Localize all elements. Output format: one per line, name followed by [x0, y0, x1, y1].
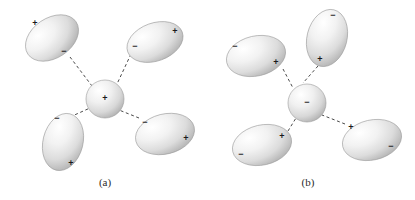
panel-a-caption: (a) — [99, 176, 112, 189]
dipole-lower-right-a-sign-1: + — [183, 133, 188, 143]
central-ion-b-sign: − — [304, 97, 309, 107]
dipole-upper-right-a-sign-0: + — [172, 26, 177, 36]
dipole-upper-left-a-sign-0: + — [32, 18, 37, 28]
dipole-lower-right-a-sign-0: − — [142, 117, 147, 127]
dipole-lower-left-a-sign-1: + — [68, 158, 73, 168]
dipole-top-b-sign-1: + — [317, 54, 322, 64]
dipole-upper-left-b-sign-1: + — [273, 57, 278, 67]
dipole-upper-right-a-sign-1: − — [132, 41, 137, 51]
dipole-upper-left-b-sign-0: − — [232, 41, 237, 51]
dipole-upper-left-a-sign-1: − — [61, 46, 66, 56]
panel-b-caption: (b) — [302, 176, 315, 189]
dipole-top-b-sign-0: − — [330, 10, 335, 20]
dipole-lower-right-b-sign-1: − — [388, 141, 393, 151]
figure-container: ++−+−−+−+−−+−++−+− (a)(b) — [0, 0, 415, 200]
dipole-arrangement-figure: ++−+−−+−+−−+−++−+− (a)(b) — [0, 0, 415, 200]
dipole-lower-left-a-sign-0: − — [54, 113, 59, 123]
dipole-lower-right-b-sign-0: + — [348, 122, 353, 132]
central-ion-a-sign: + — [102, 93, 107, 103]
dipole-lower-left-b-sign-0: + — [279, 131, 284, 141]
dipole-lower-left-b-sign-1: − — [238, 149, 243, 159]
